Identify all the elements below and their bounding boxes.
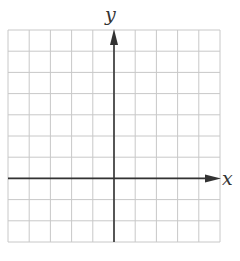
coordinate-plane: y x [0,0,240,261]
x-axis-label: x [222,167,233,189]
y-axis-arrow-icon [110,29,118,45]
y-axis-label: y [104,3,116,25]
x-axis-arrow-icon [205,174,221,182]
